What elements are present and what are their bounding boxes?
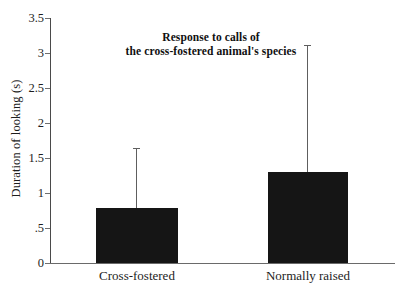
error-bar-line-cross-fostered [136, 148, 137, 208]
y-tick-label-1.5: 1.5 [28, 152, 44, 165]
y-axis-line [50, 18, 51, 263]
bar-normally-raised [268, 172, 348, 263]
y-tick-label-3.5: 3.5 [28, 12, 44, 25]
y-tick-label-1: 1 [38, 187, 44, 200]
y-tick-label-3: 3 [38, 47, 44, 60]
error-bar-cap-normally-raised [304, 45, 311, 46]
x-axis-line [50, 263, 395, 264]
plot-title: Response to calls of the cross-fostered … [96, 31, 326, 58]
error-bar-line-normally-raised [307, 45, 308, 172]
y-tick-label-2: 2 [38, 117, 44, 130]
y-axis-title: Duration of looking (s) [9, 54, 24, 224]
y-tick-label-2.5: 2.5 [28, 82, 44, 95]
plot-title-line-1: Response to calls of [96, 31, 326, 45]
x-tick-label-cross-fostered: Cross-fostered [77, 268, 197, 284]
y-tick-label-0.5: .5 [35, 222, 44, 235]
error-bar-cap-cross-fostered [133, 148, 140, 149]
plot-title-line-2: the cross-fostered animal's species [96, 45, 326, 59]
chart-figure: Duration of looking (s) 3.5 3 2.5 2 1.5 … [0, 0, 403, 297]
x-tick-label-normally-raised: Normally raised [248, 268, 368, 284]
y-tick-label-0: 0 [38, 257, 44, 270]
bar-cross-fostered [96, 208, 178, 263]
